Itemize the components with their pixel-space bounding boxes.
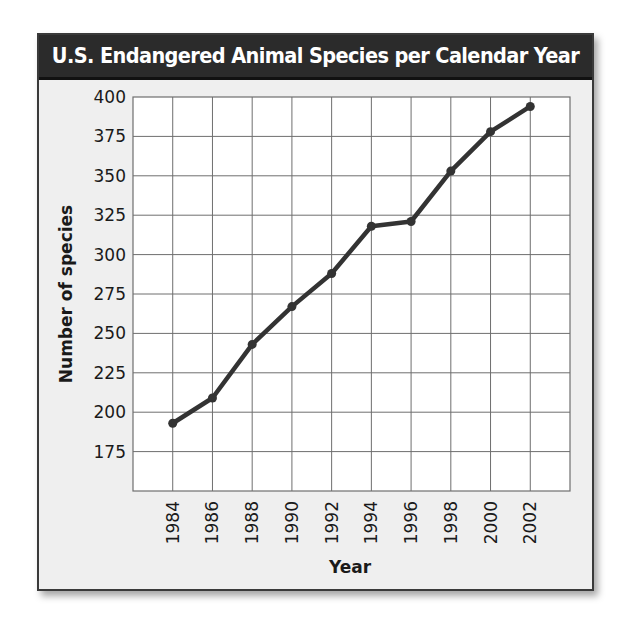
data-point [248,340,257,349]
y-tick-label: 400 [94,87,126,107]
x-axis-title: Year [328,557,372,577]
y-tick-label: 350 [94,166,126,186]
x-tick-label: 1988 [242,501,262,544]
data-point [446,167,455,176]
y-tick-label: 175 [94,442,126,462]
y-tick-label: 300 [94,245,126,265]
data-point [327,269,336,278]
data-point [407,217,416,226]
x-tick-label: 1998 [441,501,461,544]
x-tick-label: 1986 [202,501,222,544]
data-point [486,127,495,136]
data-point [526,102,535,111]
y-tick-label: 250 [94,323,126,343]
y-axis-title: Number of species [56,205,76,383]
data-point [367,222,376,231]
x-axis-ticks: 1984198619881990199219941996199820002002 [163,501,541,544]
y-tick-label: 325 [94,205,126,225]
x-tick-label: 1994 [361,501,381,544]
plot-area [133,97,570,491]
x-tick-label: 2002 [520,501,540,544]
x-tick-label: 1996 [401,501,421,544]
x-tick-label: 1990 [282,501,302,544]
data-point [168,419,177,428]
y-tick-label: 200 [94,402,126,422]
x-tick-label: 1984 [163,501,183,544]
data-point [208,394,217,403]
data-point [287,302,296,311]
y-tick-label: 225 [94,363,126,383]
line-chart: 400375350325300275250225200175 198419861… [0,0,633,636]
y-tick-label: 375 [94,126,126,146]
y-tick-label: 275 [94,284,126,304]
y-axis-ticks: 400375350325300275250225200175 [94,87,126,462]
x-tick-label: 1992 [322,501,342,544]
x-tick-label: 2000 [481,501,501,544]
